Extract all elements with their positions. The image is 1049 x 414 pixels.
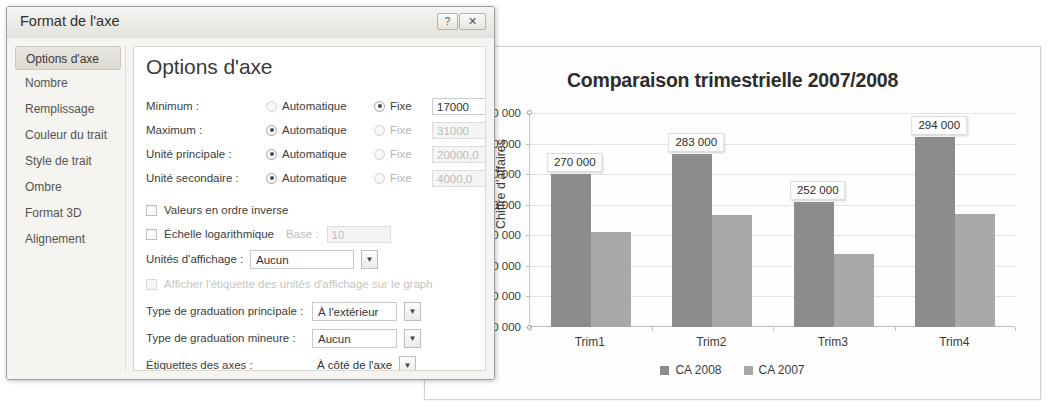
x-axis-label-trim4: Trim4 (939, 335, 969, 349)
scale-fixed-option[interactable]: Fixe (374, 124, 432, 136)
scale-row-0[interactable]: Minimum :AutomatiqueFixe17000 (146, 95, 486, 117)
minor-tick-combo[interactable]: Aucun ▼ (312, 329, 421, 348)
legend-item-ca-2007[interactable]: CA 2007 (744, 363, 805, 377)
major-tick-row[interactable]: Type de graduation principale : À l'exté… (146, 300, 421, 322)
help-icon[interactable]: ? (437, 13, 458, 30)
dialog-nav-list[interactable]: Options d'axeNombreRemplissageCouleur du… (15, 46, 126, 371)
show-unit-label-text: Afficher l'étiquette des unités d'affich… (164, 278, 433, 290)
scale-fixed-radio[interactable] (374, 149, 385, 160)
nav-item-options-d-axe[interactable]: Options d'axe (15, 46, 121, 70)
scale-auto-option[interactable]: Automatique (266, 124, 374, 136)
nav-item-remplissage[interactable]: Remplissage (15, 96, 125, 122)
log-base-label: Base : (286, 228, 319, 240)
nav-item-alignement[interactable]: Alignement (15, 226, 125, 252)
bar-trim3-ca-2007[interactable] (834, 254, 874, 327)
scale-auto-option[interactable]: Automatique (266, 100, 374, 112)
gridline (530, 113, 1015, 114)
nav-item-format-3d[interactable]: Format 3D (15, 200, 125, 226)
scale-value-input: 4000,0 (432, 170, 486, 187)
scale-auto-radio[interactable] (266, 149, 277, 160)
show-unit-label-checkbox (146, 279, 157, 290)
scale-fixed-radio[interactable] (374, 101, 385, 112)
bar-trim1-ca-2007[interactable] (591, 232, 631, 327)
dialog-titlebar[interactable]: Format de l'axe ? ✕ (7, 7, 494, 39)
nav-item-label: Options d'axe (26, 52, 99, 66)
chart-legend[interactable]: CA 2008CA 2007 (425, 363, 1040, 377)
log-scale-checkbox[interactable] (146, 229, 157, 240)
bar-trim4-ca-2007[interactable] (955, 214, 995, 327)
axis-labels-row[interactable]: Étiquettes des axes : À côté de l'axe ▼ (146, 354, 416, 371)
nav-item-label: Couleur du trait (25, 128, 107, 142)
pane-title: Options d'axe (146, 55, 272, 79)
axis-labels-combo[interactable]: À côté de l'axe ▼ (312, 356, 416, 372)
nav-item-couleur-du-trait[interactable]: Couleur du trait (15, 122, 125, 148)
format-axis-dialog[interactable]: Format de l'axe ? ✕ Options d'axeNombreR… (6, 6, 495, 380)
scale-row-3[interactable]: Unité secondaire :AutomatiqueFixe4000,0 (146, 167, 486, 189)
bar-trim1-ca-2008[interactable] (551, 174, 591, 327)
scale-row-label: Unité principale : (146, 148, 266, 160)
scale-fixed-radio[interactable] (374, 173, 385, 184)
bar-trim4-ca-2008[interactable] (915, 137, 955, 327)
chevron-down-icon[interactable]: ▼ (404, 329, 421, 348)
scale-auto-label: Automatique (282, 124, 347, 136)
scale-fixed-label: Fixe (390, 148, 412, 160)
x-axis-label-trim1: Trim1 (575, 335, 605, 349)
x-axis-tick (773, 327, 774, 331)
chevron-down-icon[interactable]: ▼ (361, 250, 378, 269)
minor-tick-label: Type de graduation mineure : (146, 332, 312, 344)
minor-tick-row[interactable]: Type de graduation mineure : Aucun ▼ (146, 327, 421, 349)
nav-item-label: Format 3D (25, 206, 82, 220)
log-scale-row[interactable]: Échelle logarithmique Base : 10 (146, 223, 391, 245)
scale-auto-radio[interactable] (266, 101, 277, 112)
data-label[interactable]: 294 000 (911, 116, 967, 135)
axis-selection-handle[interactable] (527, 110, 532, 115)
nav-item-nombre[interactable]: Nombre (15, 70, 125, 96)
major-tick-combo[interactable]: À l'extérieur ▼ (312, 302, 421, 321)
nav-item-ombre[interactable]: Ombre (15, 174, 125, 200)
major-tick-label: Type de graduation principale : (146, 305, 312, 317)
scale-row-1[interactable]: Maximum :AutomatiqueFixe31000 (146, 119, 486, 141)
scale-auto-label: Automatique (282, 172, 347, 184)
bar-trim2-ca-2008[interactable] (672, 154, 712, 327)
scale-fixed-radio[interactable] (374, 125, 385, 136)
x-axis-tick (530, 327, 531, 331)
scale-row-2[interactable]: Unité principale :AutomatiqueFixe20000,0 (146, 143, 486, 165)
scale-fixed-label: Fixe (390, 124, 412, 136)
data-label[interactable]: 283 000 (668, 133, 724, 152)
nav-item-label: Alignement (25, 232, 85, 246)
scale-auto-label: Automatique (282, 100, 347, 112)
scale-auto-option[interactable]: Automatique (266, 148, 374, 160)
bar-trim2-ca-2007[interactable] (712, 215, 752, 327)
axis-labels-value: À côté de l'axe (312, 356, 397, 372)
scale-value-input[interactable]: 17000 (432, 98, 486, 115)
major-tick-value: À l'extérieur (312, 302, 397, 321)
chart-window[interactable]: Comparaison trimestrielle 2007/2008 Chif… (424, 46, 1041, 400)
scale-fixed-option[interactable]: Fixe (374, 172, 432, 184)
log-scale-label: Échelle logarithmique (164, 228, 274, 240)
reverse-order-row[interactable]: Valeurs en ordre inverse (146, 199, 288, 221)
display-units-combo[interactable]: Aucun ▼ (250, 250, 378, 269)
y-axis-tick (526, 174, 530, 175)
nav-item-label: Nombre (25, 76, 68, 90)
data-label[interactable]: 252 000 (790, 181, 846, 200)
reverse-order-label: Valeurs en ordre inverse (164, 204, 288, 216)
legend-item-ca-2008[interactable]: CA 2008 (660, 363, 721, 377)
nav-item-style-de-trait[interactable]: Style de trait (15, 148, 125, 174)
scale-fixed-option[interactable]: Fixe (374, 100, 432, 112)
data-label[interactable]: 270 000 (547, 153, 603, 172)
reverse-order-checkbox[interactable] (146, 205, 157, 216)
close-icon[interactable]: ✕ (459, 13, 486, 30)
scale-value-input: 31000 (432, 122, 486, 139)
display-units-value: Aucun (250, 250, 354, 269)
scale-fixed-label: Fixe (390, 172, 412, 184)
bar-trim3-ca-2008[interactable] (794, 202, 834, 327)
scale-auto-option[interactable]: Automatique (266, 172, 374, 184)
scale-fixed-option[interactable]: Fixe (374, 148, 432, 160)
x-axis-tick-labels: Trim1Trim2Trim3Trim4 (529, 335, 1015, 355)
chevron-down-icon[interactable]: ▼ (399, 356, 416, 372)
chevron-down-icon[interactable]: ▼ (404, 302, 421, 321)
plot-canvas[interactable]: 270 000283 000252 000294 000 (529, 113, 1015, 327)
scale-auto-radio[interactable] (266, 125, 277, 136)
scale-auto-radio[interactable] (266, 173, 277, 184)
display-units-row[interactable]: Unités d'affichage : Aucun ▼ (146, 248, 378, 270)
